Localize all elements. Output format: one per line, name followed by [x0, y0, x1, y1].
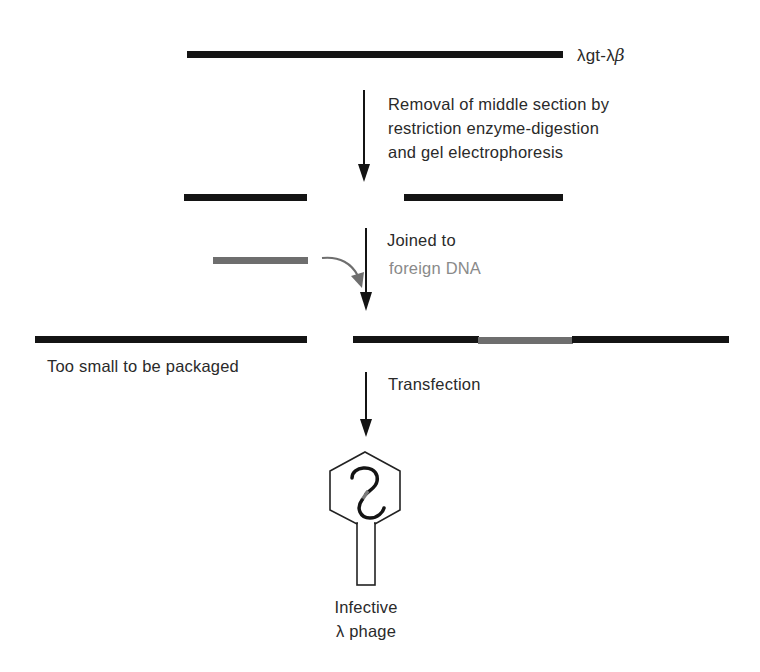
curved-arrow-icon [322, 258, 364, 288]
left-arm-dna [184, 194, 307, 201]
step3-line1: Joined to [387, 230, 456, 250]
right-arm-dna [404, 194, 563, 201]
recombinant-left-arm [353, 336, 479, 343]
transfection-label: Transfection [388, 374, 481, 394]
result-line2: λ phage [321, 621, 411, 641]
result-line1: Infective [326, 597, 406, 617]
step2-line2: restriction enzyme-digestion [388, 118, 599, 138]
small-dna-too-small [35, 336, 307, 343]
arrow-down-icon [358, 90, 370, 182]
lambda-phage-icon [330, 452, 400, 585]
arrow-down-icon [360, 228, 372, 311]
foreign-dna-fragment [213, 257, 308, 264]
arrow-down-icon [360, 372, 372, 437]
recombinant-insert [478, 337, 573, 344]
step3-line2: foreign DNA [389, 258, 481, 278]
step2-line1: Removal of middle section by [388, 94, 609, 114]
step2-line3: and gel electrophoresis [388, 142, 563, 162]
recombinant-right-arm [572, 336, 729, 343]
too-small-label: Too small to be packaged [47, 356, 239, 376]
